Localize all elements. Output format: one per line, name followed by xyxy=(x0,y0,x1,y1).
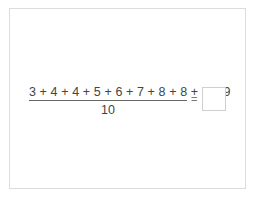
denominator: 10 xyxy=(29,104,187,117)
numerator: 3 + 4 + 4 + 5 + 6 + 7 + 8 + 8 + 8 + 9 xyxy=(29,86,187,99)
fraction-bar xyxy=(29,100,187,101)
mean-fraction: 3 + 4 + 4 + 5 + 6 + 7 + 8 + 8 + 8 + 9 10 xyxy=(29,86,187,117)
answer-input-box[interactable] xyxy=(202,87,226,111)
equals-sign: = xyxy=(191,93,197,105)
